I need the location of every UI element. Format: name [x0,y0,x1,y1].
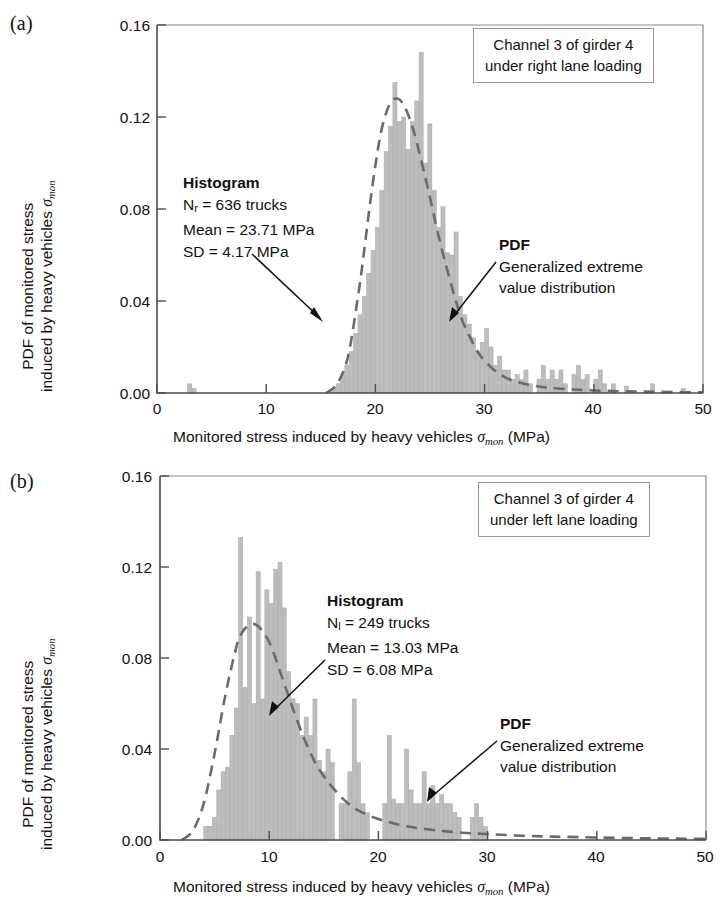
histogram-bar [413,804,417,840]
histogram-bar [550,370,554,393]
histogram-bar [188,384,192,393]
histogram-bar [375,227,379,393]
panel-a-arrow-histogram [252,254,323,322]
histogram-bar [485,329,489,393]
histogram-bar [506,370,510,393]
histogram-bar [252,704,256,841]
histogram-bar [400,804,404,840]
figure-container: (a) PDF of monitored stress induced by h… [0,0,723,922]
histogram-bar [348,772,352,840]
histogram-bar [603,384,607,393]
histogram-bar [309,735,313,840]
histogram-bar [247,617,251,840]
histogram-bar [221,772,225,840]
histogram-bar [393,83,397,394]
histogram-bar [437,227,441,393]
histogram-bar [384,152,388,394]
histogram-bar [389,126,393,393]
histogram-bar [256,572,260,840]
histogram-bar [406,149,410,393]
histogram-bar [426,804,430,840]
histogram-bar [423,163,427,393]
histogram-bar [362,296,366,393]
histogram-bar [230,735,234,840]
histogram-bar [339,804,343,840]
histogram-bar [239,537,243,840]
histogram-bar [234,708,238,840]
histogram-bar [345,365,349,393]
histogram-bar [282,608,286,840]
histogram-bar [212,817,216,840]
histogram-bar [371,250,375,393]
histogram-bar [470,817,474,840]
histogram-bar [457,817,461,840]
histogram-bar [243,688,247,840]
histogram-bar [365,813,369,840]
histogram-bar [260,699,264,840]
histogram-bar [410,122,414,393]
histogram-bar [453,813,457,840]
histogram-bar [444,804,448,840]
histogram-bar [357,763,361,840]
panel-b-bars [204,537,488,840]
histogram-bar [349,352,353,393]
histogram-bar [476,352,480,393]
histogram-bar [352,699,356,840]
histogram-bar [361,804,365,840]
histogram-bar [554,379,558,393]
histogram-bar [440,795,444,841]
histogram-bar [269,603,273,840]
histogram-bar [479,817,483,840]
histogram-bar [418,804,422,840]
panel-b: (b) PDF of monitored stress induced by h… [0,460,723,922]
histogram-bar [300,735,304,840]
histogram-bar [397,122,401,393]
histogram-bar [402,117,406,393]
histogram-bar [380,191,384,393]
histogram-bar [265,590,269,840]
panel-b-plot-area [0,460,723,922]
histogram-bar [450,255,454,393]
histogram-bar [546,379,550,393]
histogram-bar [472,338,476,393]
histogram-bar [358,315,362,393]
histogram-bar [520,379,524,393]
histogram-bar [291,699,295,840]
histogram-bar [585,375,589,393]
histogram-bar [278,562,282,840]
histogram-bar [409,790,413,840]
histogram-bar [541,365,545,393]
histogram-bar [217,790,221,840]
histogram-bar [383,804,387,840]
histogram-bar [326,749,330,840]
histogram-bar [524,370,528,393]
histogram-bar [322,772,326,840]
histogram-bar [480,342,484,393]
histogram-bar [367,273,371,393]
histogram-bar [441,207,445,393]
histogram-bar [448,804,452,840]
histogram-bar [515,375,519,393]
histogram-bar [387,735,391,840]
histogram-bar [498,356,502,393]
histogram-bar [343,804,347,840]
histogram-bar [204,826,208,840]
histogram-bar [396,804,400,840]
histogram-bar [419,53,423,393]
histogram-bar [313,699,317,840]
histogram-bar [428,124,432,393]
panel-a: (a) PDF of monitored stress induced by h… [0,0,723,460]
histogram-bar [435,804,439,840]
histogram-bar [354,333,358,393]
histogram-bar [392,799,396,840]
panel-b-arrow-pdf [427,741,497,802]
histogram-bar [511,379,515,393]
histogram-bar [208,826,212,840]
histogram-bar [502,370,506,393]
histogram-bar [226,767,230,840]
panel-a-plot-area [0,0,723,460]
histogram-bar [330,763,334,840]
histogram-bar [336,384,340,393]
histogram-bar [304,717,308,840]
